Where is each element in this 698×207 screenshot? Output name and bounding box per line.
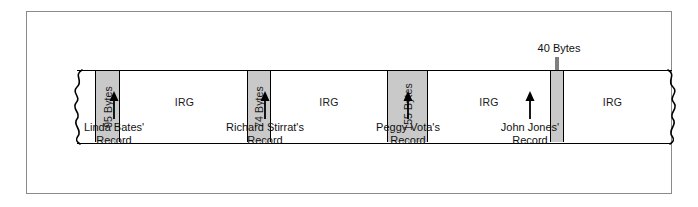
callout-john-jones-caption: John Jones' Record [501,121,559,147]
callout-john-jones-line1: John Jones' [501,121,559,134]
up-arrow-icon [109,91,120,119]
callout-linda-bates-line1: Linda Bates' [84,121,144,134]
callout-40-bytes-label: 40 Bytes [524,42,594,54]
irg-label-1: IRG [119,96,250,108]
callout-richard-stirrat-caption: Richard Stirrat's Record [226,121,304,147]
up-arrow-icon [260,91,271,119]
tape-band: IRG IRG IRG IRG 95 Bytes 74 Bytes 155 By… [68,70,681,144]
diagram-frame: 40 Bytes IRG IRG IRG IRG 95 Bytes [26,11,672,194]
tape-bottom-edge [77,143,672,144]
callout-richard-stirrat-line1: Richard Stirrat's [226,121,304,134]
up-arrow-icon [525,91,536,119]
callout-peggy-vota-caption: Peggy Vota's Record [376,121,440,147]
wavy-break-right-icon [660,68,682,146]
irg-label-2: IRG [270,96,388,108]
up-arrow-icon [403,91,414,119]
diagram-canvas: 40 Bytes IRG IRG IRG IRG 95 Bytes [0,0,698,207]
callout-peggy-vota-line1: Peggy Vota's [376,121,440,134]
callout-john-jones-line2: Record [501,134,559,147]
callout-peggy-vota-line2: Record [376,134,440,147]
tape-top-edge [77,70,672,71]
callout-linda-bates-line2: Record [84,134,144,147]
irg-label-4: IRG [565,96,660,108]
callout-linda-bates-caption: Linda Bates' Record [84,121,144,147]
callout-richard-stirrat-line2: Record [226,134,304,147]
